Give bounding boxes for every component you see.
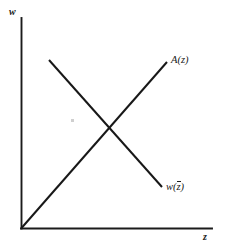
x-axis-label: z (203, 232, 207, 242)
y-axis-label: w (9, 7, 16, 17)
descending-curve-w-of-z (49, 60, 162, 187)
curve-label-w-suffix: ) (181, 181, 185, 192)
figure-canvas (0, 0, 225, 248)
curve-label-w-prefix: w( (166, 181, 177, 192)
curve-label-w-of-z: w(z) (166, 181, 184, 193)
scan-artifact-speck (71, 119, 74, 122)
figure-container: w z A(z) w(z) (0, 0, 225, 248)
curve-label-a-of-z: A(z) (171, 55, 189, 66)
ascending-curve-a-of-z (22, 62, 168, 228)
